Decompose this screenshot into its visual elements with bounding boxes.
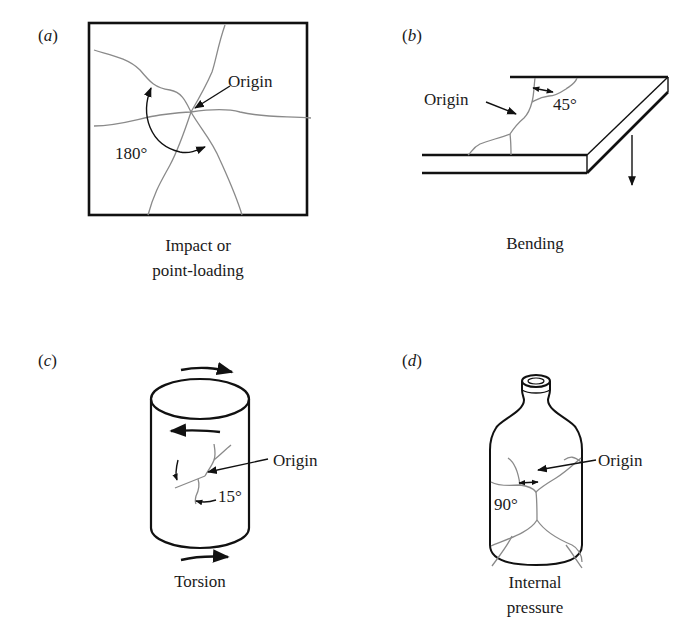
origin-arrow bbox=[486, 102, 516, 114]
angle-arrow bbox=[533, 88, 553, 92]
angle-label: 90° bbox=[494, 495, 518, 514]
crack-lines bbox=[468, 78, 577, 155]
caption-line-1: Internal bbox=[509, 573, 562, 592]
torque-arrow-mid bbox=[171, 430, 220, 432]
panel-d: (d) 90° Origin Internal pressure bbox=[402, 351, 643, 617]
panel-c: (c) 15° Origin Torsion bbox=[38, 351, 318, 591]
caption-line-2: point-loading bbox=[152, 261, 244, 280]
torque-arrow-top bbox=[181, 368, 232, 372]
caption-line-1: Bending bbox=[506, 234, 564, 253]
origin-label: Origin bbox=[273, 451, 318, 470]
panel-b-label: (b) bbox=[402, 26, 422, 45]
panel-a: (a) 180° Origin Impact or point-loading bbox=[38, 23, 311, 280]
angle-label: 15° bbox=[218, 487, 242, 506]
crack-lines bbox=[94, 25, 311, 215]
crack-arrow-left bbox=[176, 460, 178, 480]
caption-line-1: Torsion bbox=[174, 572, 226, 591]
plate-outline bbox=[89, 23, 307, 215]
panel-d-label: (d) bbox=[402, 351, 422, 370]
origin-label: Origin bbox=[228, 72, 273, 91]
angle-label: 180° bbox=[115, 144, 147, 163]
angle-label: 45° bbox=[553, 95, 577, 114]
caption-line-1: Impact or bbox=[165, 236, 231, 255]
origin-arrow bbox=[538, 460, 596, 470]
panel-a-label: (a) bbox=[38, 26, 58, 45]
panel-c-label: (c) bbox=[38, 351, 57, 370]
torque-arrow-bottom bbox=[181, 556, 228, 560]
angle-arrow bbox=[519, 482, 538, 483]
panel-b: (b) 45° Origin Bending bbox=[402, 26, 668, 253]
origin-arrow bbox=[208, 459, 268, 472]
cylinder-outline bbox=[151, 379, 249, 548]
angle-arrow bbox=[196, 500, 216, 502]
origin-label: Origin bbox=[598, 451, 643, 470]
fracture-origin-figure: (a) 180° Origin Impact or point-loading … bbox=[0, 0, 679, 632]
bottle-outline bbox=[490, 375, 582, 565]
origin-label: Origin bbox=[424, 90, 469, 109]
caption-line-2: pressure bbox=[507, 598, 564, 617]
